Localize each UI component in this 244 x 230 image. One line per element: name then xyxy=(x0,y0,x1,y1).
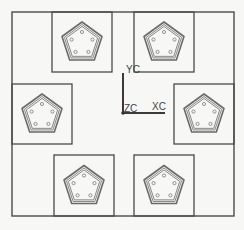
bolt-hole-icon xyxy=(80,30,83,33)
box-outline xyxy=(134,155,194,216)
bolt-hole-icon xyxy=(209,122,212,125)
bolt-hole-icon xyxy=(82,174,85,177)
pentagon-outline xyxy=(146,168,181,201)
pentagon-outline xyxy=(146,25,181,58)
bolt-hole-icon xyxy=(169,50,172,53)
cad-drawing: YC XC ZC xyxy=(0,0,244,230)
bolt-hole-icon xyxy=(169,194,172,197)
bolt-hole-icon xyxy=(192,110,195,113)
bolt-hole-icon xyxy=(40,102,43,105)
pentagon-outline xyxy=(144,166,184,204)
bolt-hole-icon xyxy=(30,110,33,113)
part-box-bottom-right xyxy=(134,155,194,216)
pentagon-outline xyxy=(24,97,59,130)
bolt-hole-icon xyxy=(156,194,159,197)
bolt-hole-icon xyxy=(93,182,96,185)
pentagon-outline xyxy=(22,94,62,132)
bolt-hole-icon xyxy=(72,182,75,185)
bolt-hole-icon xyxy=(47,122,50,125)
bolt-hole-icon xyxy=(213,110,216,113)
bolt-hole-icon xyxy=(202,102,205,105)
box-outline xyxy=(54,155,114,216)
part-box-bottom-left xyxy=(54,155,114,216)
pentagon-outline xyxy=(144,22,184,60)
part-box-left xyxy=(12,84,72,144)
bolt-hole-icon xyxy=(76,194,79,197)
box-outline xyxy=(174,84,234,144)
bolt-hole-icon xyxy=(196,122,199,125)
part-box-top-right xyxy=(134,12,194,72)
bolt-hole-icon xyxy=(152,182,155,185)
bolt-hole-icon xyxy=(152,38,155,41)
pentagon-outline xyxy=(186,97,221,130)
part-box-right xyxy=(174,84,234,144)
bolt-hole-icon xyxy=(87,50,90,53)
bolt-hole-icon xyxy=(89,194,92,197)
pentagon-outline xyxy=(66,168,101,201)
bolt-hole-icon xyxy=(173,38,176,41)
part-box-top-left xyxy=(52,12,112,72)
yc-label: YC xyxy=(126,64,140,75)
xc-label: XC xyxy=(152,101,166,112)
bolt-hole-icon xyxy=(91,38,94,41)
box-outline xyxy=(52,12,112,72)
bolt-hole-icon xyxy=(70,38,73,41)
pentagon-outline xyxy=(184,94,224,132)
bolt-hole-icon xyxy=(173,182,176,185)
box-outline xyxy=(134,12,194,72)
bolt-hole-icon xyxy=(162,30,165,33)
bolt-hole-icon xyxy=(162,174,165,177)
bolt-hole-icon xyxy=(74,50,77,53)
pentagon-outline xyxy=(62,22,102,60)
zc-label: ZC xyxy=(124,103,137,114)
bolt-hole-icon xyxy=(34,122,37,125)
bolt-hole-icon xyxy=(156,50,159,53)
box-outline xyxy=(12,84,72,144)
pentagon-outline xyxy=(64,166,104,204)
bolt-hole-icon xyxy=(51,110,54,113)
pentagon-outline xyxy=(64,25,99,58)
